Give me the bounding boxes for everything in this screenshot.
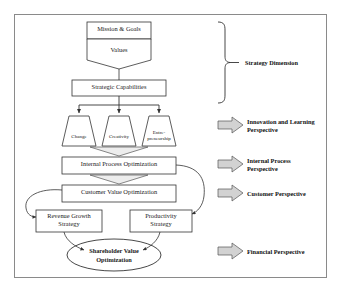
shape-values bbox=[87, 39, 151, 69]
curve-internal-to-productivity bbox=[176, 165, 204, 214]
label-entrepreneurship-line2: preneurship bbox=[138, 136, 180, 141]
label-entrepreneurship-line1: Entre- bbox=[138, 130, 180, 135]
label-mission-goals: Mission & Goals bbox=[87, 26, 151, 33]
shape-creativity bbox=[102, 116, 136, 146]
label-creativity: Creativity bbox=[98, 134, 140, 139]
label-change: Change bbox=[58, 134, 100, 139]
label-productivity-strategy-line1: Productivity bbox=[130, 213, 192, 220]
block-arrow-customer bbox=[218, 185, 243, 201]
perspective-label-customer: Customer Perspective bbox=[247, 190, 306, 198]
label-shareholder-value-line2: Optimization bbox=[67, 256, 161, 264]
label-internal-process-optimization: Internal Process Optimization bbox=[62, 161, 176, 168]
perspective-label-strategy-dimension: Strategy Dimension bbox=[245, 59, 298, 67]
block-arrow-financial bbox=[218, 243, 243, 259]
label-revenue-growth-strategy-line1: Revenue Growth bbox=[36, 213, 102, 220]
chevron-to-customer-value bbox=[90, 175, 148, 184]
perspective-label-financial: Financial Perspective bbox=[247, 248, 305, 256]
diagram-canvas: Mission & Goals Values Strategic Capabil… bbox=[0, 0, 343, 295]
label-shareholder-value-line1: Shareholder Value bbox=[67, 247, 161, 255]
perspective-label-innovation-learning: Innovation and Learning Perspective bbox=[247, 118, 315, 134]
label-strategic-capabilities: Strategic Capabilities bbox=[72, 84, 166, 91]
perspective-label-internal-process: Internal Process Perspective bbox=[247, 157, 291, 173]
block-arrow-internal-process bbox=[218, 156, 243, 172]
shape-change bbox=[62, 116, 96, 146]
chevron-to-internal-process bbox=[90, 147, 148, 156]
label-revenue-growth-strategy-line2: Strategy bbox=[36, 221, 102, 228]
label-values: Values bbox=[87, 47, 151, 54]
shape-shareholder-value-optimization bbox=[67, 239, 161, 271]
label-customer-value-optimization: Customer Value Optimization bbox=[62, 189, 176, 196]
label-productivity-strategy-line2: Strategy bbox=[130, 221, 192, 228]
brace-strategy-dimension bbox=[218, 22, 230, 103]
block-arrow-innovation-learning bbox=[218, 117, 243, 133]
